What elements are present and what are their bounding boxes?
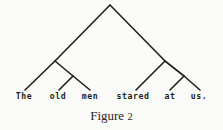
- tree-leaf-us: us.: [191, 90, 207, 103]
- tree-branch-left-node-to-left-sub: [55, 61, 73, 76]
- figure-container: Theoldmenstaredatus. Figure 2: [0, 0, 223, 130]
- tree-leaf-men: men: [82, 90, 98, 103]
- tree-branch-left-node-to-leaf-the: [25, 61, 55, 90]
- tree-leaf-at: at: [165, 90, 176, 103]
- tree-branch-left-sub-to-leaf-old: [59, 76, 73, 90]
- tree-branch-root-to-right-node: [110, 5, 165, 61]
- tree-branch-right-sub-to-leaf-us: [184, 76, 200, 90]
- figure-caption: Figure 2: [0, 107, 223, 125]
- tree-leaf-stared: stared: [117, 90, 150, 103]
- figure-caption-label: Figure: [90, 108, 124, 123]
- figure-caption-number: 2: [127, 111, 132, 122]
- tree-edge-group: [25, 5, 200, 90]
- leaf-word-row: Theoldmenstaredatus.: [0, 90, 223, 103]
- tree-branch-root-to-left-node: [55, 5, 110, 61]
- tree-branch-left-sub-to-leaf-men: [73, 76, 90, 90]
- tree-leaf-old: old: [50, 90, 66, 103]
- tree-leaf-the: The: [16, 90, 32, 103]
- tree-branch-right-node-to-right-sub: [165, 61, 184, 76]
- tree-branch-right-node-to-leaf-stared: [136, 61, 165, 90]
- tree-branch-right-sub-to-leaf-at: [170, 76, 184, 90]
